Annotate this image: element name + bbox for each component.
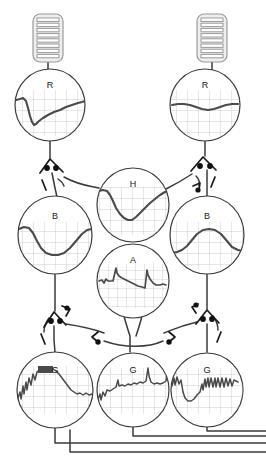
node-g-left[interactable]: G — [16, 352, 96, 428]
node-b-left-label: B — [52, 211, 58, 221]
node-g-right-label: G — [203, 365, 210, 375]
synapse-left-upper-dot-a — [44, 165, 50, 171]
diagram-canvas: R R H B — [0, 0, 266, 463]
node-a-mid-scope — [96, 264, 172, 308]
node-r-right-label: R — [202, 80, 209, 90]
output-line-4 — [70, 430, 266, 452]
synapse-right-upper-dot-b — [207, 163, 213, 169]
link-left-branch — [58, 179, 64, 186]
synapse-mid-left[interactable] — [92, 332, 101, 345]
node-r-left-label: R — [47, 80, 54, 90]
synapse-left-lower-dot-c — [64, 305, 69, 310]
node-r-left[interactable]: R — [12, 69, 90, 141]
synapse-right-lower-fork — [196, 310, 219, 324]
network-diagram-svg: R R H B — [0, 0, 266, 463]
synapse-right-upper-dot-a — [197, 163, 203, 169]
link-a-to-g-mid-2 — [136, 316, 142, 336]
link-r-left-to-h — [64, 177, 99, 188]
node-b-right-scope — [168, 222, 246, 270]
synapse-right-upper-dot-c — [195, 187, 200, 192]
node-h-mid-scope — [95, 187, 173, 235]
synapse-right-lower-dot-b — [209, 316, 215, 322]
node-b-right[interactable]: B — [168, 196, 246, 274]
synapse-right-lower-dot-c — [193, 302, 198, 307]
synapse-right-lower-dot-a — [200, 316, 206, 322]
link-r-right-to-h — [166, 174, 192, 189]
synapse-right-upper-fork — [191, 157, 216, 171]
output-line-3 — [207, 427, 266, 431]
node-a-mid-label: A — [130, 255, 136, 265]
synapse-right-upper[interactable] — [191, 157, 216, 193]
synapse-left-lower-dot-b — [57, 318, 63, 324]
link-mid-bus — [104, 341, 163, 346]
synapse-mid-left-dot — [95, 339, 100, 344]
node-h-mid[interactable]: H — [95, 168, 173, 242]
branch-tick-right-lower — [217, 332, 221, 342]
link-r-left-axon — [52, 173, 57, 197]
synapse-left-upper-fork — [40, 159, 63, 173]
synapse-left-upper-dot-b — [53, 165, 59, 171]
node-b-left-scope — [16, 222, 94, 270]
link-b-left-axon — [54, 326, 55, 352]
node-g-left-label: G — [51, 365, 58, 375]
node-g-mid-label: G — [129, 365, 136, 375]
synapse-mid-right-dot — [166, 339, 171, 344]
striped-block-left[interactable] — [33, 14, 63, 62]
branch-tick-right — [211, 177, 215, 187]
striped-block-right[interactable] — [197, 14, 227, 62]
node-b-right-label: B — [204, 211, 210, 221]
synapse-mid-right[interactable] — [166, 332, 175, 345]
node-a-mid[interactable]: A — [96, 244, 172, 318]
synapse-left-lower-dot-a — [48, 318, 54, 324]
synapse-left-upper[interactable] — [40, 159, 63, 173]
synapse-right-lower[interactable] — [192, 302, 219, 324]
branch-tick-left — [42, 180, 46, 190]
node-h-mid-label: H — [130, 179, 137, 189]
node-g-mid[interactable]: G — [96, 353, 174, 427]
branch-tick-left-lower — [41, 334, 45, 344]
node-r-right[interactable]: R — [167, 69, 245, 141]
node-g-right[interactable]: G — [170, 353, 248, 427]
node-b-left[interactable]: B — [16, 196, 94, 274]
